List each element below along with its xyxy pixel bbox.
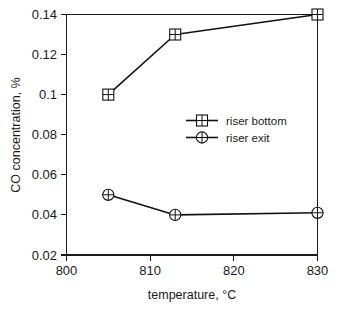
x-tick-label-830: 830 bbox=[307, 263, 329, 278]
riser-exit-marker-830 bbox=[312, 207, 323, 218]
y-tick-label-0-14: 0.14 bbox=[32, 7, 57, 22]
riser-bottom-marker-805 bbox=[103, 89, 114, 100]
riser-exit-marker-813 bbox=[170, 209, 181, 220]
riser-exit-marker-805 bbox=[103, 189, 114, 200]
x-tick-label-800: 800 bbox=[56, 263, 78, 278]
legend-label-riser-bottom: riser bottom bbox=[226, 115, 287, 127]
co-concentration-line-chart: 0.02 0.04 0.06 0.08 0.1 0.12 0.14 800 81… bbox=[0, 0, 338, 318]
y-tick-label-0-12: 0.12 bbox=[32, 47, 57, 62]
x-tick-label-810: 810 bbox=[139, 263, 161, 278]
legend-entry-riser-bottom[interactable]: riser bottom bbox=[186, 115, 287, 127]
y-tick-label-0-02: 0.02 bbox=[32, 248, 57, 263]
legend-label-riser-exit: riser exit bbox=[226, 132, 270, 144]
x-axis-title: temperature, °C bbox=[148, 288, 236, 302]
y-tick-label-0-06: 0.06 bbox=[32, 167, 57, 182]
legend-entry-riser-exit[interactable]: riser exit bbox=[186, 132, 270, 144]
y-tick-label-0-04: 0.04 bbox=[32, 207, 57, 222]
y-axis-title: CO concentration, % bbox=[9, 77, 23, 192]
y-tick-label-0-1: 0.1 bbox=[39, 87, 57, 102]
chart-figure: 0.02 0.04 0.06 0.08 0.1 0.12 0.14 800 81… bbox=[0, 0, 338, 318]
riser-bottom-marker-813 bbox=[170, 29, 181, 40]
riser-bottom-marker-830 bbox=[312, 9, 323, 20]
x-tick-label-820: 820 bbox=[223, 263, 245, 278]
y-tick-label-0-08: 0.08 bbox=[32, 127, 57, 142]
